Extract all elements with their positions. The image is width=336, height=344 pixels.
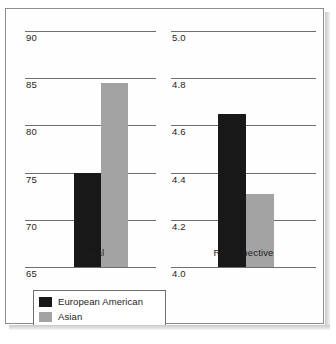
figure-frame: 657075808590 Actual 4.04.24.44.64.85.0 R…: [5, 8, 324, 324]
y-axis-tick-label: 75: [26, 174, 37, 185]
plot-area-actual: 657075808590: [25, 31, 156, 267]
category-label-retrospective: Retrospective: [171, 247, 316, 258]
gridline: [25, 267, 156, 268]
bar-asian: [101, 83, 128, 267]
legend-swatch-icon-european-american: [39, 297, 52, 307]
legend: European American Asian: [33, 290, 166, 327]
y-axis-tick-label: 65: [26, 268, 37, 279]
scan-shadow-bottom: [9, 325, 330, 330]
y-axis-tick-label: 4.8: [172, 79, 186, 90]
gridline: [25, 31, 156, 32]
y-axis-tick-label: 4.6: [172, 126, 186, 137]
legend-swatch-icon-asian: [39, 312, 52, 322]
y-axis-tick-label: 90: [26, 32, 37, 43]
y-axis-tick-label: 85: [26, 79, 37, 90]
legend-item-european-american: European American: [39, 294, 161, 309]
bar-european-american: [218, 114, 246, 267]
panel-retrospective: 4.04.24.44.64.85.0: [171, 31, 316, 267]
gridline: [171, 31, 316, 32]
y-axis-tick-label: 4.0: [172, 268, 186, 279]
plot-area-retrospective: 4.04.24.44.64.85.0: [171, 31, 316, 267]
y-axis-tick-label: 4.4: [172, 174, 186, 185]
gridline: [25, 125, 156, 126]
y-axis-tick-label: 5.0: [172, 32, 186, 43]
scan-shadow-right: [325, 12, 330, 328]
gridline: [25, 78, 156, 79]
category-label-actual: Actual: [25, 247, 156, 258]
gridline: [171, 78, 316, 79]
y-axis-tick-label: 70: [26, 221, 37, 232]
gridline: [171, 267, 316, 268]
legend-label-european-american: European American: [58, 296, 143, 307]
legend-item-asian: Asian: [39, 309, 161, 324]
panel-actual: 657075808590: [25, 31, 156, 267]
y-axis-tick-label: 80: [26, 126, 37, 137]
legend-label-asian: Asian: [58, 311, 82, 322]
y-axis-tick-label: 4.2: [172, 221, 186, 232]
